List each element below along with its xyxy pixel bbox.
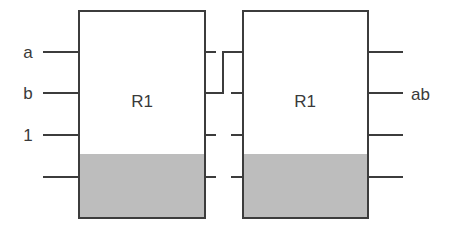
left-block-inputs: a b 1 (23, 43, 79, 177)
input-label-1: 1 (23, 126, 32, 145)
input-label-b: b (23, 84, 32, 103)
right-block-outputs: ab (368, 52, 430, 177)
connection-wire (205, 52, 243, 93)
right-block-label: R1 (294, 92, 316, 111)
output-label-ab: ab (411, 85, 430, 104)
right-register-block: R1 (243, 11, 368, 218)
left-register-block: R1 (79, 11, 205, 218)
left-block-label: R1 (131, 92, 153, 111)
left-block-shaded-region (80, 154, 204, 217)
diagram-canvas: R1 a b 1 R1 ab (0, 0, 458, 234)
input-label-a: a (23, 43, 33, 62)
right-block-inputs (231, 93, 243, 177)
left-block-outputs (205, 52, 216, 177)
right-block-shaded-region (244, 154, 367, 217)
